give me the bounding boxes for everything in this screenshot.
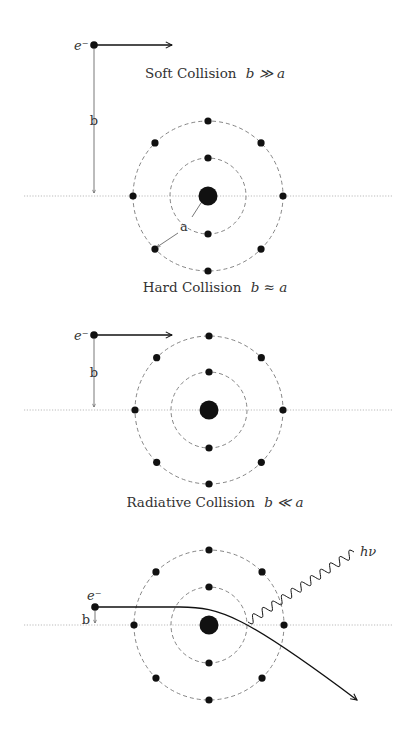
- inner-electron: [205, 659, 212, 666]
- electron-label: e⁻: [74, 38, 89, 53]
- incident-electron: [90, 41, 98, 49]
- outer-electron: [257, 245, 264, 252]
- outer-electron: [258, 354, 265, 361]
- panel-radiative-collision: Radiative Collision b ≪ a hνe⁻b: [24, 494, 392, 704]
- outer-electron: [204, 117, 211, 124]
- panel-hard-collision: Hard Collision b ≈ a e⁻b: [24, 279, 392, 488]
- incident-electron: [90, 331, 98, 339]
- photon-label: hν: [360, 544, 376, 559]
- nucleus: [200, 616, 219, 635]
- panel-title: Hard Collision b ≈ a: [143, 279, 288, 295]
- outer-electron: [129, 192, 136, 199]
- outer-electron: [152, 674, 159, 681]
- nucleus: [199, 187, 218, 206]
- inner-electron: [205, 368, 212, 375]
- outer-electron: [205, 480, 212, 487]
- outer-electron: [151, 139, 158, 146]
- radius-arrow: [157, 233, 178, 247]
- electron-label: e⁻: [87, 588, 102, 603]
- outer-electron: [205, 332, 212, 339]
- outer-electron: [280, 621, 287, 628]
- nucleus: [200, 401, 219, 420]
- outer-electron: [153, 354, 160, 361]
- inner-electron: [205, 583, 212, 590]
- electron-label: e⁻: [74, 328, 89, 343]
- outer-electron: [205, 696, 212, 703]
- radius-label: a: [180, 219, 188, 234]
- photon-wave: [248, 550, 354, 624]
- outer-electron: [153, 459, 160, 466]
- outer-electron: [279, 406, 286, 413]
- outer-electron: [258, 568, 265, 575]
- impact-parameter-label: b: [90, 113, 98, 128]
- outer-electron: [131, 406, 138, 413]
- outer-electron: [152, 568, 159, 575]
- impact-parameter-label: b: [82, 612, 90, 627]
- panel-title: Radiative Collision b ≪ a: [126, 494, 303, 510]
- incident-electron: [91, 603, 99, 611]
- inner-electron: [204, 154, 211, 161]
- inner-electron: [204, 230, 211, 237]
- outer-electron: [204, 267, 211, 274]
- outer-electron: [205, 546, 212, 553]
- outer-electron: [258, 674, 265, 681]
- outer-electron: [258, 459, 265, 466]
- inner-electron: [205, 444, 212, 451]
- panel-title: Soft Collision b ≫ a: [145, 65, 285, 81]
- collision-diagram: Soft Collision b ≫ a e⁻ba Hard Collision…: [0, 0, 410, 729]
- outer-electron: [279, 192, 286, 199]
- outer-electron: [130, 621, 137, 628]
- radius-line: [192, 203, 201, 217]
- outer-electron: [257, 139, 264, 146]
- impact-parameter-label: b: [90, 365, 98, 380]
- panel-soft-collision: Soft Collision b ≫ a e⁻ba: [24, 38, 392, 275]
